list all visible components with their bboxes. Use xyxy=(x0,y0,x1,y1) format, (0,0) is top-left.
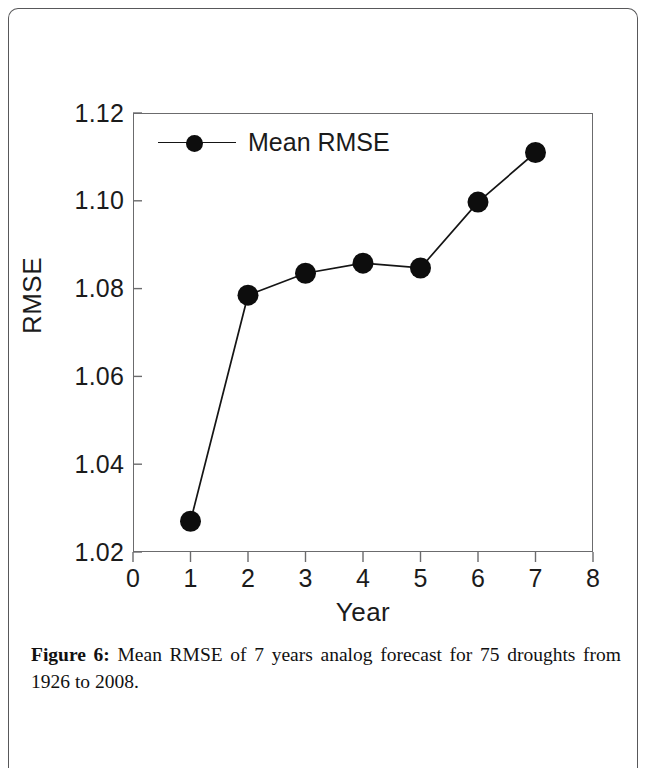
y-tick-1.08: 1.08 xyxy=(60,276,124,301)
x-tick-4: 4 xyxy=(343,563,383,593)
plot-canvas xyxy=(133,113,593,552)
series-markers-mean-rmse xyxy=(180,142,546,532)
data-point xyxy=(180,511,201,532)
y-axis-ticks xyxy=(133,113,142,552)
x-tick-0: 0 xyxy=(113,563,153,593)
legend-label-mean-rmse: Mean RMSE xyxy=(248,130,390,155)
legend-marker-icon xyxy=(158,132,236,154)
x-tick-2: 2 xyxy=(228,563,268,593)
y-tick-1.10: 1.10 xyxy=(60,188,124,213)
x-tick-7: 7 xyxy=(516,563,556,593)
y-axis-title: RMSE xyxy=(17,236,48,356)
x-axis-title: Year xyxy=(133,597,593,628)
data-point xyxy=(295,263,316,284)
y-tick-1.12: 1.12 xyxy=(60,101,124,126)
x-axis-ticks xyxy=(133,552,593,562)
x-tick-8: 8 xyxy=(573,563,613,593)
y-tick-1.02: 1.02 xyxy=(60,540,124,565)
figure-caption-text: Mean RMSE of 7 years analog forecast for… xyxy=(31,644,621,692)
x-tick-1: 1 xyxy=(171,563,211,593)
x-axis-tick-labels: 0 1 2 3 4 5 6 7 8 xyxy=(0,563,646,597)
x-tick-5: 5 xyxy=(401,563,441,593)
y-tick-1.04: 1.04 xyxy=(60,452,124,477)
legend-dot-icon xyxy=(186,135,203,152)
data-point xyxy=(410,257,431,278)
chart-area: 1.12 1.10 1.08 1.06 1.04 1.02 RMSE xyxy=(0,0,646,630)
data-point xyxy=(353,253,374,274)
figure-caption: Figure 6: Mean RMSE of 7 years analog fo… xyxy=(31,641,621,695)
y-tick-1.06: 1.06 xyxy=(60,364,124,389)
x-tick-3: 3 xyxy=(286,563,326,593)
data-point xyxy=(238,285,259,306)
x-tick-6: 6 xyxy=(458,563,498,593)
chart-legend: Mean RMSE xyxy=(158,130,390,155)
data-point xyxy=(525,142,546,163)
figure-caption-label: Figure 6: xyxy=(31,644,110,665)
data-point xyxy=(468,192,489,213)
